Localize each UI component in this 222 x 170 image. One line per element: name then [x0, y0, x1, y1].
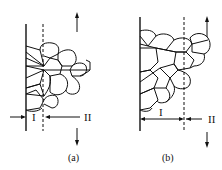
region-II-label-b: II — [208, 114, 215, 125]
figure-b-drawing — [140, 16, 210, 148]
dimension-arrows-b — [140, 117, 202, 121]
figure-a-drawing — [26, 12, 90, 146]
region-I-label-a: I — [32, 112, 36, 123]
diagram-drawing — [0, 0, 222, 170]
dimension-arrows-a — [10, 115, 80, 119]
caption-b: (b) — [162, 153, 174, 163]
region-I-label-b: I — [159, 107, 163, 118]
caption-a: (a) — [68, 153, 79, 163]
diagram-root: I II (a) I II (b) — [0, 0, 222, 170]
region-II-label-a: II — [84, 112, 91, 123]
